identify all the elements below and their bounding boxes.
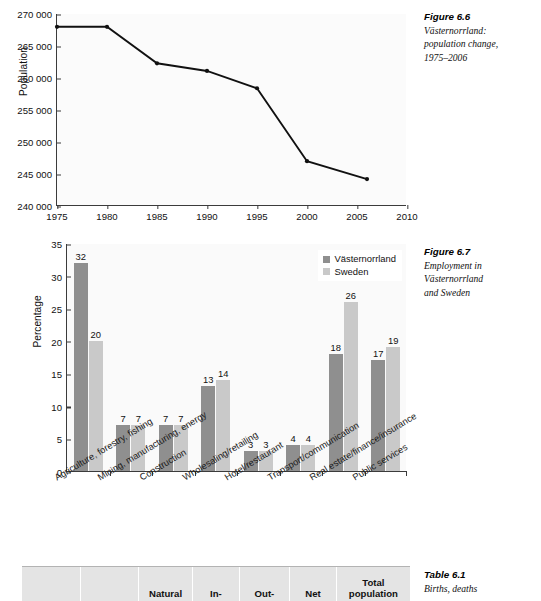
table-header-cell-line: Out- (241, 588, 288, 599)
figure-6-6-caption-line: 1975–2006 (424, 51, 534, 64)
bar-chart-legend: VästernorrlandSweden (318, 250, 403, 281)
bar-chart-y-tick: 30 (51, 271, 67, 282)
line-chart-data-point (365, 177, 369, 181)
line-chart-x-tick: 2010 (396, 205, 417, 222)
table-6-1-caption-body: Births, deaths (424, 582, 534, 595)
table-header-cell-line: In- (194, 588, 238, 599)
line-chart-data-point (305, 159, 309, 163)
bar-chart-y-tick: 20 (51, 336, 67, 347)
table-6-1-grid: NaturalIn-Out-NetTotalpopulation (22, 567, 410, 601)
bar-chart-value-label: 14 (218, 368, 228, 379)
figure-6-6-line-chart: Population 240 000245 000250 000255 0002… (0, 0, 420, 232)
bar-chart-value-label: 19 (388, 335, 398, 346)
bar-chart-legend-item: Sweden (323, 266, 397, 279)
line-chart-x-tick: 2005 (346, 205, 367, 222)
figure-6-7-caption: Figure 6.7 Employment inVästernorrlandan… (424, 245, 534, 299)
table-header-cell: Net (290, 567, 337, 601)
line-chart-x-tick: 1980 (96, 205, 117, 222)
line-chart-x-tick: 2000 (296, 205, 317, 222)
line-chart-data-point (255, 86, 259, 90)
bar-chart-value-label: 18 (330, 342, 340, 353)
figure-6-6-caption-line: Västernorrland: (424, 24, 534, 37)
table-6-1-caption: Table 6.1 Births, deaths (424, 568, 534, 595)
table-header-cell-line: Natural (140, 588, 191, 599)
table-header-cell: Out- (239, 567, 289, 601)
bar-chart-y-tick: 10 (51, 401, 67, 412)
figure-6-7-caption-body: Employment inVästernorrlandand Sweden (424, 259, 534, 299)
line-chart-data-point (55, 25, 59, 29)
line-chart-y-tick: 260 000 (17, 73, 57, 84)
table-row: NaturalIn-Out-NetTotalpopulation (22, 567, 410, 601)
bar-chart-legend-item: Västernorrland (323, 253, 397, 266)
line-chart-x-tick: 1995 (246, 205, 267, 222)
figure-6-6-caption-body: Västernorrland:population change,1975–20… (424, 24, 534, 64)
bar-chart-value-label: 7 (163, 413, 168, 424)
bar-chart-legend-label: Västernorrland (335, 253, 397, 266)
bar-chart-bar: 32 (74, 263, 88, 471)
line-chart-x-tick: 1990 (196, 205, 217, 222)
table-header-cell-line: Total (338, 577, 409, 588)
line-chart-data-point (105, 25, 109, 29)
line-chart-y-tick: 250 000 (17, 137, 57, 148)
figure-6-7-caption-line: Employment in (424, 259, 534, 272)
bar-chart-y-tick: 25 (51, 304, 67, 315)
table-header-cell: Natural (138, 567, 192, 601)
table-header-cell: Totalpopulation (336, 567, 410, 601)
table-6-1: NaturalIn-Out-NetTotalpopulation (22, 566, 410, 601)
legend-swatch-icon (323, 256, 330, 263)
bar-chart-value-label: 17 (373, 348, 383, 359)
bar-chart-y-tick: 35 (51, 239, 67, 250)
legend-swatch-icon (323, 268, 330, 275)
figure-6-6-caption-line: population change, (424, 37, 534, 50)
line-chart-y-tick: 255 000 (17, 105, 57, 116)
figure-6-7-caption-line: Västernorrland (424, 272, 534, 285)
bar-chart-category-labels: Agriculture, forestry, fishingMining, ma… (66, 472, 426, 536)
table-header-cell-line: population (338, 588, 409, 599)
line-chart-series-population (57, 14, 407, 206)
line-chart-y-tick: 245 000 (17, 169, 57, 180)
bar-chart-legend-label: Sweden (335, 266, 369, 279)
bar-chart-value-label: 13 (203, 374, 213, 385)
line-chart-x-tick: 1975 (46, 205, 67, 222)
bar-chart-y-tick: 15 (51, 369, 67, 380)
line-chart-data-point (155, 61, 159, 65)
bar-chart-y-axis-label: Percentage (32, 277, 43, 367)
line-chart-y-tick: 265 000 (17, 41, 57, 52)
bar-chart-value-label: 32 (75, 251, 85, 262)
figure-6-6-caption: Figure 6.6 Västernorrland:population cha… (424, 10, 534, 64)
line-chart-x-tick: 1985 (146, 205, 167, 222)
table-header-cell (80, 567, 138, 601)
bar-chart-value-label: 4 (306, 433, 311, 444)
bar-chart-value-label: 7 (121, 413, 126, 424)
line-chart-plot-area: 240 000245 000250 000255 000260 000265 0… (56, 14, 406, 206)
table-6-1-caption-line: Births, deaths (424, 582, 534, 595)
figure-6-7-caption-line: and Sweden (424, 286, 534, 299)
bar-chart-value-label: 26 (346, 290, 356, 301)
line-chart-data-point (205, 69, 209, 73)
bar-chart-y-tick: 5 (57, 434, 67, 445)
figure-6-7-bar-chart: Percentage VästernorrlandSweden 05101520… (0, 236, 420, 536)
bar-chart-value-label: 20 (91, 329, 101, 340)
table-header-cell: In- (193, 567, 240, 601)
line-chart-y-tick: 270 000 (17, 9, 57, 20)
bar-chart-value-label: 4 (291, 433, 296, 444)
table-header-cell (22, 567, 80, 601)
table-header-cell-line: Net (291, 588, 335, 599)
